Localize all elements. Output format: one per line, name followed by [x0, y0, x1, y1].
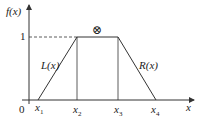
tick-x2: x2	[73, 104, 81, 118]
right-curve-label: R(x)	[139, 60, 158, 71]
y-axis-label: f(x)	[6, 6, 21, 17]
tick-x1: x1	[35, 102, 43, 116]
trapezoid-diagram	[0, 0, 207, 118]
level-1-label: 1	[20, 31, 26, 42]
origin-label: 0	[19, 104, 25, 115]
left-curve-label: L(x)	[41, 60, 59, 71]
x-axis-label: x	[186, 102, 191, 113]
tick-x4: x4	[151, 104, 159, 118]
otimes-symbol: ⊗	[92, 24, 102, 36]
tick-x3: x3	[114, 104, 122, 118]
